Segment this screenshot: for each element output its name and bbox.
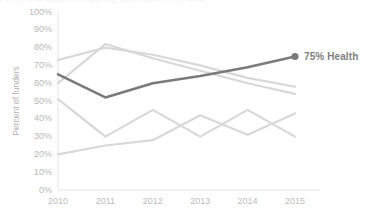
line-chart: Percent of funders requiring open access… xyxy=(0,0,376,220)
plot-area xyxy=(0,0,376,220)
x-tick-label: 2014 xyxy=(225,196,271,206)
x-tick-label: 2011 xyxy=(82,196,128,206)
series-end-marker xyxy=(291,53,298,60)
x-tick-label: 2010 xyxy=(35,196,81,206)
x-tick-label: 2013 xyxy=(177,196,223,206)
series-line-muted xyxy=(58,113,295,154)
series-end-label: 75% Health xyxy=(304,51,358,62)
x-tick-label: 2012 xyxy=(130,196,176,206)
series-line-muted xyxy=(58,99,295,136)
x-tick-label: 2015 xyxy=(272,196,318,206)
series-line-highlight xyxy=(58,57,295,98)
